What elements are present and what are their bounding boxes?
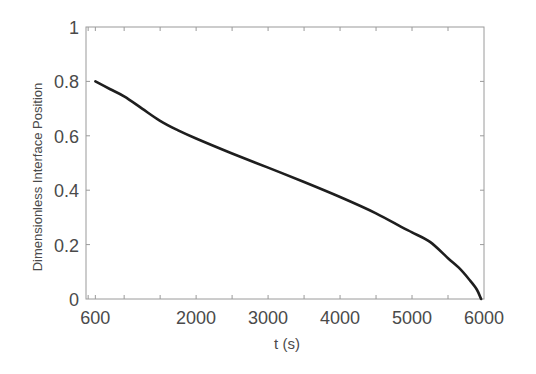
y-axis-title: Dimensionless Interface Position xyxy=(30,83,45,272)
x-tick-label: 600 xyxy=(80,308,110,328)
x-tick-label: 2000 xyxy=(176,308,216,328)
x-minor-ticks xyxy=(88,27,448,299)
y-tick-label: 0.4 xyxy=(54,181,79,201)
y-tick-label: 0.6 xyxy=(54,127,79,147)
y-tick-label: 0.2 xyxy=(54,236,79,256)
x-tick-label: 6000 xyxy=(464,308,504,328)
y-axis-tick-labels: 00.20.40.60.81 xyxy=(54,18,79,310)
plot-frame xyxy=(86,27,484,299)
line-chart: 60020003000400050006000 00.20.40.60.81 t… xyxy=(0,0,536,374)
x-tick-label: 4000 xyxy=(320,308,360,328)
x-tick-label: 3000 xyxy=(248,308,288,328)
y-tick-label: 0.8 xyxy=(54,72,79,92)
y-tick-label: 1 xyxy=(69,18,79,38)
y-axis-ticks xyxy=(86,81,484,244)
data-series-line xyxy=(95,81,481,299)
x-axis-tick-labels: 60020003000400050006000 xyxy=(80,308,504,328)
x-tick-label: 5000 xyxy=(392,308,432,328)
x-axis-title: t (s) xyxy=(274,335,300,352)
y-tick-label: 0 xyxy=(69,290,79,310)
